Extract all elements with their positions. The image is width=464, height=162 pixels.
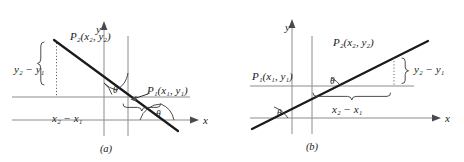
panel-b-delta-y-label: y₂ − y₁ bbox=[413, 63, 445, 75]
panel-b-y-axis-label: y bbox=[284, 21, 290, 33]
panel-a-delta-x-label: x₂ − x₁ bbox=[51, 112, 83, 124]
panel-b-p2-label: P₂(x₂, y₂) bbox=[332, 36, 374, 49]
panel-a-p1-label: P₁(x₁, y₁) bbox=[146, 84, 188, 97]
panel-b-brace-delta-y bbox=[402, 58, 409, 84]
panel-b-p1-label: P₁(x₁, y₁) bbox=[251, 70, 293, 83]
panel-b-theta-axis-label: θ bbox=[277, 108, 282, 118]
panel-a-x-axis-label: x bbox=[202, 114, 208, 126]
panel-a-caption: (a) bbox=[100, 143, 113, 155]
panel-a-delta-y-label: y₂ − y₁ bbox=[13, 63, 45, 75]
panel-a-p2-label: P₂(x₂, y₂) bbox=[69, 30, 111, 43]
panel-b-brace-delta-x bbox=[313, 93, 391, 100]
panel-a-theta-arc-axis-right bbox=[161, 104, 174, 120]
panel-a-x-axis-arrowhead bbox=[190, 117, 199, 124]
panel-b-caption: (b) bbox=[306, 141, 319, 153]
panel-b-theta-point-label: θ bbox=[330, 76, 335, 86]
panel-a: P₂(x₂, y₂) P₁(x₁, y₁) y₂ − y₁ x₂ − x₁ θ … bbox=[12, 21, 208, 155]
panel-b-x-axis-label: x bbox=[444, 112, 450, 124]
panel-a-theta-point-label: θ bbox=[113, 85, 118, 95]
panel-a-y-axis-label: y bbox=[95, 23, 101, 35]
panel-b: P₂(x₂, y₂) P₁(x₁, y₁) y₂ − y₁ x₂ − x₁ θ … bbox=[250, 19, 450, 153]
panel-a-theta-axis-label: θ bbox=[156, 109, 161, 119]
panel-b-delta-x-label: x₂ − x₁ bbox=[331, 103, 363, 115]
panel-a-y-axis-arrowhead bbox=[101, 21, 108, 30]
figure-root: P₂(x₂, y₂) P₁(x₁, y₁) y₂ − y₁ x₂ − x₁ θ … bbox=[0, 0, 464, 162]
panel-b-x-axis-arrowhead bbox=[432, 115, 441, 122]
figure-canvas: P₂(x₂, y₂) P₁(x₁, y₁) y₂ − y₁ x₂ − x₁ θ … bbox=[0, 0, 464, 162]
